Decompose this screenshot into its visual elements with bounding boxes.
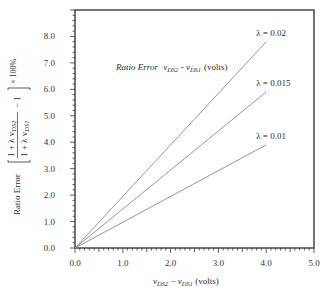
title-sep: - [178,62,186,72]
ylabel-suffix: × 100% [9,58,18,84]
y-axis-tick-labels: 0.01.02.03.04.05.06.07.08.0 [44,31,56,253]
title-var1-sub: DS2 [166,66,179,73]
y-tick-label: 0.0 [44,243,56,253]
y-tick-label: 5.0 [44,111,56,121]
x-tick-label: 0.0 [69,258,81,268]
x-tick-label: 4.0 [261,258,273,268]
series-labels: λ = 0.02λ = 0.015λ = 0.01 [256,28,291,141]
title-var2-sub: DS1 [189,66,201,73]
y-axis-label: Ratio Error 1 + λ vDS2 1 + λ vDS1 − 1 × … [6,58,30,215]
series-label: λ = 0.015 [256,78,291,88]
ylabel-num-sub: DS2 [10,120,17,133]
ylabel-num: 1 + λ v [6,131,16,157]
y-tick-label: 7.0 [44,58,56,68]
x-tick-label: 1.0 [117,258,129,268]
title-units: (volts) [204,62,228,72]
xlabel-var1-sub: DS2 [156,280,169,287]
x-tick-label: 2.0 [165,258,177,268]
y-tick-label: 4.0 [44,137,56,147]
title-italic: Ratio Error [115,62,158,72]
x-tick-label: 5.0 [308,258,320,268]
y-tick-label: 3.0 [44,164,56,174]
x-axis-tick-labels: 0.01.02.03.04.05.0 [69,258,320,268]
ylabel-den-sub: DS1 [23,121,30,133]
ylabel-numerator: 1 + λ vDS2 [6,120,17,157]
x-axis-label: vDS2 − vDS1 (volts) [153,276,219,287]
x-tick-label: 3.0 [213,258,225,268]
ratio-error-chart: 0.01.02.03.04.05.0 0.01.02.03.04.05.06.0… [0,0,330,299]
series-label: λ = 0.01 [256,131,286,141]
xlabel-sep: − [168,276,178,286]
ylabel-right-bracket [8,88,30,90]
x-axis-ticks [75,248,314,253]
y-tick-label: 8.0 [44,31,56,41]
ylabel-denominator: 1 + λ vDS1 [19,121,30,157]
series-label: λ = 0.02 [256,28,286,38]
y-tick-label: 1.0 [44,217,56,227]
xlabel-units: (volts) [193,276,219,286]
ylabel-left-bracket [8,160,30,162]
ylabel-minus-one: − 1 [12,96,22,108]
plot-border [75,10,314,248]
chart-title-annotation: Ratio Error vDS2 - vDS1(volts) [115,62,228,73]
ylabel-prefix: Ratio Error [12,174,22,215]
series-line [75,145,266,248]
y-axis-ticks [70,10,75,248]
y-tick-label: 6.0 [44,84,56,94]
plot-frame [75,10,314,248]
y-tick-label: 2.0 [44,190,56,200]
xlabel-var2-sub: DS1 [181,280,193,287]
ylabel-den: 1 + λ v [19,131,29,157]
series-line [75,92,266,248]
